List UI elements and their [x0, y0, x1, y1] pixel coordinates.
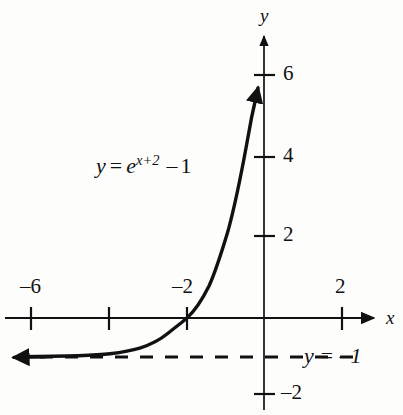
- equation-equals: =: [110, 153, 122, 178]
- asymptote-equation-label: y = –1: [304, 345, 362, 367]
- x-axis-label: x: [386, 308, 394, 327]
- equation-minus: –: [166, 153, 177, 178]
- equation-exponent: x+2: [136, 152, 160, 168]
- equation-base: e: [126, 153, 136, 178]
- curve-equation-label: y=ex+2–1: [96, 155, 191, 177]
- y-tick-label-2: 2: [283, 224, 294, 245]
- curve-left-tail-arrow: [14, 357, 45, 358]
- y-tick-label-4: 4: [283, 145, 294, 166]
- y-tick-label-6: 6: [283, 63, 294, 84]
- x-tick-label-minus2: –2: [172, 276, 193, 297]
- x-axis: [5, 307, 374, 330]
- y-axis-label: y: [260, 6, 268, 25]
- equation-constant: 1: [180, 153, 191, 178]
- exponential-function-graph: y x 6 4 2 –2 –6 –2 2 y=ex+2–1 y = –1: [0, 0, 403, 415]
- equation-lhs: y: [96, 153, 106, 178]
- x-tick-label-plus2: 2: [335, 276, 346, 297]
- y-tick-label-minus2: –2: [281, 382, 302, 403]
- curve-path: [21, 88, 258, 357]
- x-tick-label-minus6: –6: [20, 276, 41, 297]
